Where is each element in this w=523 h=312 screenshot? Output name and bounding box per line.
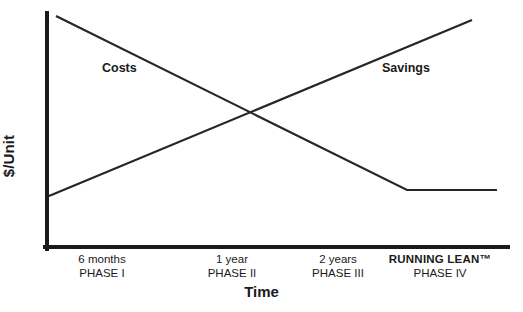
costs-series-label: Costs [102, 61, 137, 75]
x-axis-tick-phase-1: 6 months PHASE I [52, 252, 152, 280]
phase-time-label: 6 months [52, 252, 152, 266]
phase-name-label: PHASE I [52, 266, 152, 280]
chart-container: $/Unit Costs Savings 6 months PHASE I 1 … [0, 0, 523, 312]
phase-time-label: RUNNING LEAN™ [382, 252, 498, 266]
y-axis-title: $/Unit [0, 128, 17, 184]
phase-name-label: PHASE IV [382, 266, 498, 280]
savings-series-label: Savings [382, 61, 430, 75]
x-axis-tick-phase-3: 2 years PHASE III [288, 252, 388, 280]
x-axis-title: Time [0, 283, 523, 300]
phase-name-label: PHASE III [288, 266, 388, 280]
x-axis-tick-phase-2: 1 year PHASE II [182, 252, 282, 280]
phase-name-label: PHASE II [182, 266, 282, 280]
x-axis-tick-phase-4: RUNNING LEAN™ PHASE IV [382, 252, 498, 280]
phase-time-label: 1 year [182, 252, 282, 266]
phase-time-label: 2 years [288, 252, 388, 266]
